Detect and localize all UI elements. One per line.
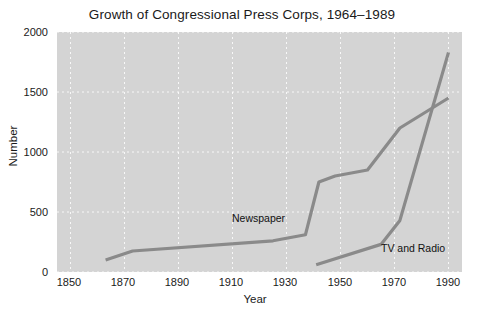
x-tick-label: 1970 <box>364 277 424 288</box>
x-tick-label: 1990 <box>418 277 478 288</box>
plot-area <box>57 32 462 272</box>
x-tick-label: 1870 <box>93 277 153 288</box>
chart-title: Growth of Congressional Press Corps, 196… <box>0 7 484 22</box>
x-tick-label: 1850 <box>39 277 99 288</box>
grid-lines <box>57 32 462 272</box>
y-axis-label: Number <box>7 116 19 176</box>
x-tick-label: 1890 <box>147 277 207 288</box>
y-tick-label: 2000 <box>2 27 48 38</box>
series-annotation-tv-and-radio: TV and Radio <box>381 242 445 254</box>
y-tick-label: 1000 <box>2 147 48 158</box>
plot-svg <box>57 32 462 272</box>
x-tick-label: 1910 <box>201 277 261 288</box>
x-tick-label: 1930 <box>255 277 315 288</box>
x-tick-label: 1950 <box>310 277 370 288</box>
y-tick-label: 1500 <box>2 87 48 98</box>
series-lines <box>106 52 449 264</box>
series-line-newspaper <box>106 98 449 260</box>
series-line-tv-and-radio <box>316 52 448 264</box>
chart-figure: Growth of Congressional Press Corps, 196… <box>0 0 484 313</box>
series-annotation-newspaper: Newspaper <box>232 212 285 224</box>
y-tick-label: 500 <box>2 207 48 218</box>
x-axis-label: Year <box>0 293 484 305</box>
